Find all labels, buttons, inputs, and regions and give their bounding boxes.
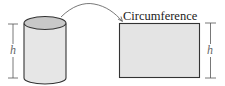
cylinder — [24, 17, 66, 85]
unfold-arrow — [61, 4, 123, 22]
cylinder-height-label: h — [10, 43, 16, 57]
circumference-label: Circumference — [123, 9, 198, 23]
rectangle-height-label: h — [207, 43, 213, 57]
cylinder-unfolding-diagram: h Circumference h — [0, 0, 225, 86]
unrolled-rectangle — [120, 24, 200, 78]
